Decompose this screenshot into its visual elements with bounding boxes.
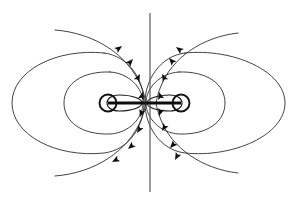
- magnetic-dipole-field-diagram: Magnetic dipole field lines: [0, 0, 296, 202]
- figure-container: Magnetic dipole field lines: [0, 0, 296, 202]
